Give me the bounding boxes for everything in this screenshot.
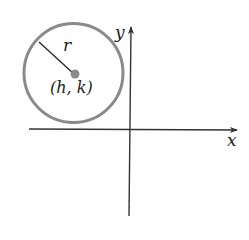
- radius-label: r: [63, 37, 71, 54]
- y-axis: [129, 27, 131, 216]
- x-axis: [29, 129, 237, 130]
- center-label: (h, k): [50, 80, 93, 96]
- y-axis-label: y: [115, 24, 125, 41]
- x-axis-label: x: [227, 132, 237, 149]
